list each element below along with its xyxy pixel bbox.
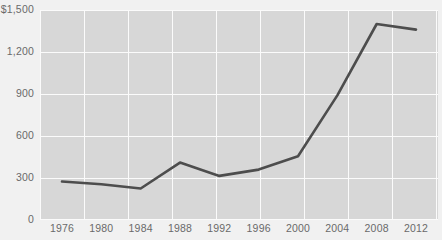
- gridline-horizontal: [40, 10, 438, 11]
- gridline-vertical: [40, 10, 41, 220]
- gridline-vertical: [436, 10, 437, 220]
- gridline-vertical: [348, 10, 349, 220]
- y-tick-label: 1,200: [0, 45, 34, 57]
- gridline-vertical: [392, 10, 393, 220]
- gridline-vertical: [260, 10, 261, 220]
- gridline-vertical: [172, 10, 173, 220]
- y-tick-label: 0: [0, 213, 34, 225]
- line-chart: $1,500 1,200 900 600 300 0 1976 1980 198…: [0, 0, 442, 240]
- gridline-vertical: [84, 10, 85, 220]
- x-tick-label: 1984: [129, 222, 153, 234]
- x-tick-label: 1992: [207, 222, 231, 234]
- y-tick-label: 600: [0, 129, 34, 141]
- y-tick-label: 300: [0, 171, 34, 183]
- gridline-horizontal: [40, 52, 438, 53]
- gridline-vertical: [216, 10, 217, 220]
- gridline-horizontal: [40, 136, 438, 137]
- x-tick-label: 1976: [50, 222, 74, 234]
- x-tick-label: 1988: [168, 222, 192, 234]
- x-tick-label: 2008: [365, 222, 389, 234]
- y-tick-label: 900: [0, 87, 34, 99]
- x-tick-label: 2000: [286, 222, 310, 234]
- x-tick-label: 1996: [247, 222, 271, 234]
- gridline-vertical: [304, 10, 305, 220]
- gridline-horizontal: [40, 94, 438, 95]
- plot-area: [40, 10, 438, 220]
- x-tick-label: 2004: [325, 222, 349, 234]
- gridline-vertical: [128, 10, 129, 220]
- x-tick-label: 2012: [404, 222, 428, 234]
- gridline-horizontal: [40, 219, 438, 220]
- x-tick-label: 1980: [89, 222, 113, 234]
- y-tick-label: $1,500: [0, 3, 34, 15]
- gridline-horizontal: [40, 178, 438, 179]
